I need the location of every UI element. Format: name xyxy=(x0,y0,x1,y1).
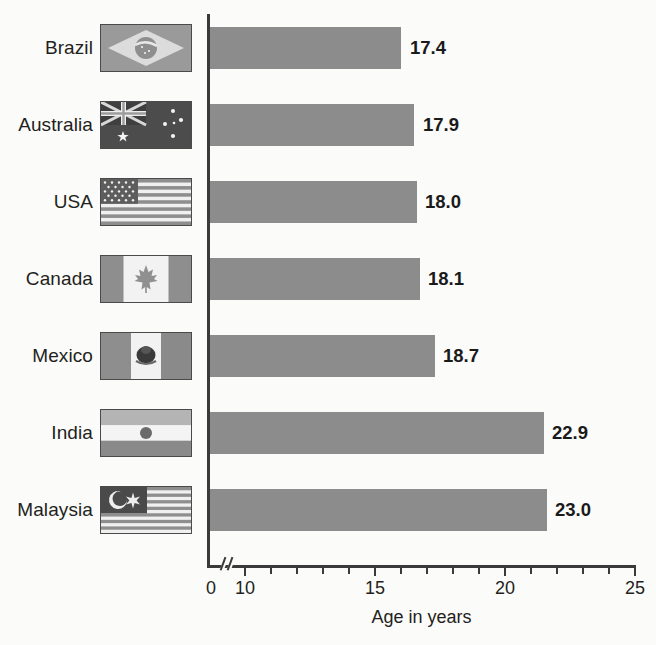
chart-row-malaysia: Malaysia 23.0 xyxy=(0,471,656,548)
category-label-canada: Canada xyxy=(0,268,93,290)
bar-value-canada: 18.1 xyxy=(428,268,464,290)
chart-row-india: India 22.9 xyxy=(0,394,656,471)
axis-break-slash-2 xyxy=(227,557,236,572)
x-axis-title: Age in years xyxy=(207,607,636,628)
x-tick-11 xyxy=(270,565,272,574)
x-tick-14 xyxy=(348,565,350,574)
malaysia-flag xyxy=(100,486,192,534)
x-tick-15 xyxy=(374,565,376,576)
bar-value-brazil: 17.4 xyxy=(410,37,446,59)
bar-value-australia: 17.9 xyxy=(423,114,459,136)
x-tick-label-20: 20 xyxy=(495,578,515,599)
x-tick-label-0: 0 xyxy=(206,578,216,599)
x-tick-21 xyxy=(530,565,532,574)
x-tick-17 xyxy=(426,565,428,574)
bar-value-usa: 18.0 xyxy=(425,191,461,213)
x-tick-label-10: 10 xyxy=(235,578,255,599)
bar-value-india: 22.9 xyxy=(552,422,588,444)
y-axis-line xyxy=(207,14,210,565)
bar-value-mexico: 18.7 xyxy=(443,345,479,367)
bar-india xyxy=(209,412,544,454)
x-tick-18 xyxy=(452,565,454,574)
canada-flag xyxy=(100,255,192,303)
usa-flag xyxy=(100,178,192,226)
x-tick-12 xyxy=(296,565,298,574)
chart-row-canada: Canada 18.1 xyxy=(0,240,656,317)
category-label-mexico: Mexico xyxy=(0,345,93,367)
x-tick-16 xyxy=(400,565,402,574)
bar-mexico xyxy=(209,335,435,377)
chart-row-brazil: Brazil 17.4 xyxy=(0,9,656,86)
chart-row-mexico: Mexico 18.7 xyxy=(0,317,656,394)
mexico-flag xyxy=(100,332,192,380)
x-tick-19 xyxy=(478,565,480,574)
bar-usa xyxy=(209,181,417,223)
category-label-usa: USA xyxy=(0,191,93,213)
india-flag xyxy=(100,409,192,457)
x-tick-label-15: 15 xyxy=(365,578,385,599)
bar-value-malaysia: 23.0 xyxy=(555,499,591,521)
x-tick-10 xyxy=(244,565,246,576)
category-label-brazil: Brazil xyxy=(0,37,93,59)
australia-flag xyxy=(100,101,192,149)
category-label-malaysia: Malaysia xyxy=(0,499,93,521)
category-label-australia: Australia xyxy=(0,114,93,136)
x-tick-24 xyxy=(608,565,610,574)
brazil-flag xyxy=(100,24,192,72)
x-tick-23 xyxy=(582,565,584,574)
x-tick-20 xyxy=(504,565,506,576)
x-tick-13 xyxy=(322,565,324,574)
bar-canada xyxy=(209,258,420,300)
chart-row-usa: USA xyxy=(0,163,656,240)
x-tick-25 xyxy=(634,565,636,576)
chart-row-australia: Australia 17.9 xyxy=(0,86,656,163)
bar-chart: Brazil 17.4 Australia xyxy=(0,0,656,645)
bar-malaysia xyxy=(209,489,547,531)
bar-australia xyxy=(209,104,414,146)
category-label-india: India xyxy=(0,422,93,444)
x-tick-22 xyxy=(556,565,558,574)
bar-brazil xyxy=(209,27,401,69)
x-tick-label-25: 25 xyxy=(625,578,645,599)
